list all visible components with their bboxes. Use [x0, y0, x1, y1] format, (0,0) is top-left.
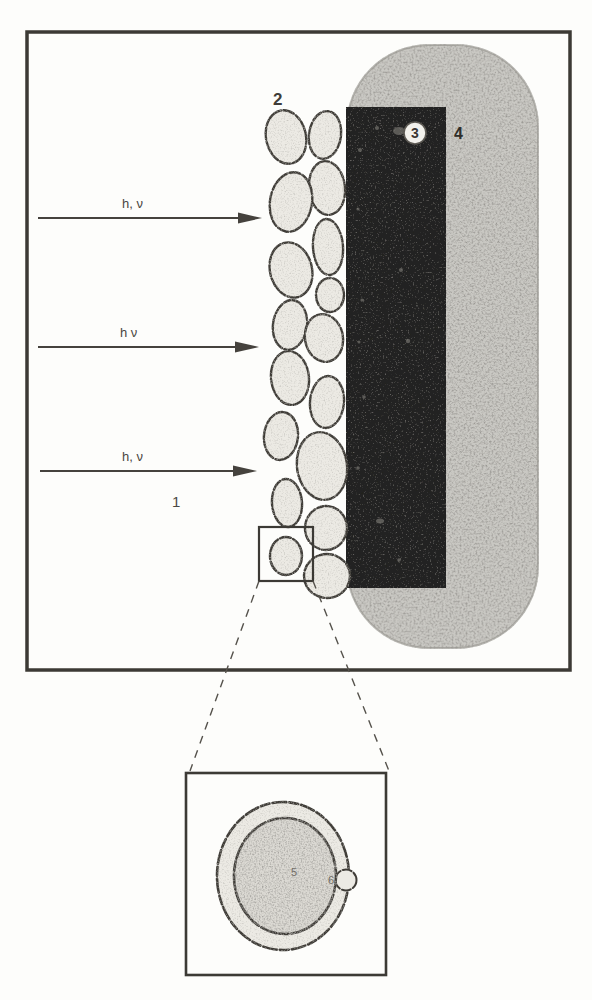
dark-electrode [346, 107, 446, 588]
photon-label-1: h, ν [122, 196, 143, 211]
photoelectrode-diagram: h, ν h ν h, ν 2 3 4 1 5 6 [0, 0, 592, 1000]
arrowhead-icon [235, 342, 259, 353]
particle-layer [261, 106, 352, 598]
particle [270, 478, 303, 528]
photon-label-3: h, ν [122, 449, 143, 464]
callout-line-left [190, 581, 259, 771]
particle [261, 106, 311, 167]
particle [268, 349, 311, 407]
shell-notch [336, 870, 357, 891]
label-electrode: 3 [411, 125, 419, 141]
arrowhead-icon [233, 466, 257, 477]
light-arrow-3: h, ν [40, 449, 257, 477]
magnified-inset: 5 6 [186, 773, 386, 975]
label-shell: 6 [328, 874, 334, 886]
photon-label-2: h ν [120, 325, 137, 340]
light-arrow-1: h, ν [38, 196, 262, 224]
particle [264, 238, 318, 302]
particle [311, 218, 345, 276]
label-core: 5 [291, 866, 297, 878]
particle [293, 429, 352, 503]
label-beam-region: 1 [172, 493, 180, 510]
particle [304, 554, 350, 598]
particle [306, 159, 347, 216]
particle [262, 410, 301, 461]
label-support: 4 [454, 125, 463, 142]
particle-core [234, 818, 336, 934]
figure-canvas: h, ν h ν h, ν 2 3 4 1 5 6 [0, 0, 592, 1000]
label-particle-layer: 2 [273, 90, 282, 109]
electrode-badge: 3 [404, 122, 426, 144]
light-arrow-2: h ν [38, 325, 259, 353]
arrowhead-icon [238, 213, 262, 224]
particle [316, 278, 344, 312]
particle [306, 109, 344, 161]
particle-magnified-source [270, 537, 302, 575]
particle [308, 375, 346, 430]
particle [270, 298, 311, 352]
